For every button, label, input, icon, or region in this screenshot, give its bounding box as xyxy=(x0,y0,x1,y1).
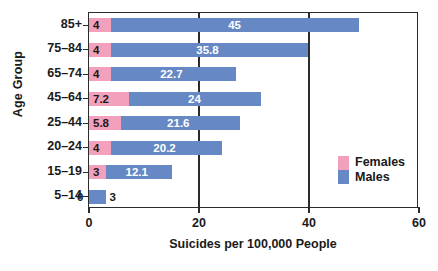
bar-value-label-females: 4 xyxy=(93,43,99,57)
legend-label-group: Females Males xyxy=(355,155,405,185)
bar-row: 5.821.6 xyxy=(89,116,419,130)
bar-value-label-females: 3 xyxy=(93,165,99,179)
x-tick-label-0: 0 xyxy=(69,216,109,230)
legend-swatch-group xyxy=(338,156,349,184)
bar-value-label-females: 7.2 xyxy=(93,92,109,106)
legend-swatch-females xyxy=(338,156,349,170)
y-axis-label-6: 15–19 xyxy=(20,164,82,179)
y-axis-label-5: 20–24 xyxy=(20,139,82,154)
bar-value-label-females: 5.8 xyxy=(93,116,109,130)
bar-segment-males xyxy=(89,190,106,204)
x-tick-label-60: 60 xyxy=(399,216,438,230)
bar-row: 445 xyxy=(89,18,419,32)
bar-value-label-males: 20.2 xyxy=(153,141,175,155)
x-tick-label-20: 20 xyxy=(179,216,219,230)
bar-row: 7.224 xyxy=(89,92,419,106)
bar-row: 435.8 xyxy=(89,43,419,57)
x-tick-60 xyxy=(418,207,419,213)
legend-swatch-males xyxy=(338,170,349,184)
bar-row: 03 xyxy=(89,190,419,204)
bar-value-label-males: 24 xyxy=(188,92,201,106)
bar-value-label-females: 4 xyxy=(93,141,99,155)
bar-value-label-females: 4 xyxy=(93,67,99,81)
y-axis-label-0: 85+ xyxy=(20,17,82,32)
legend-label-females: Females xyxy=(355,155,405,170)
bar-value-label-females: 0 xyxy=(77,190,83,204)
suicide-rate-bar-chart: Age Group 85+75–8465–7445–6425–4420–2415… xyxy=(0,0,438,271)
bar-value-label-females: 4 xyxy=(93,18,99,32)
x-tick-20 xyxy=(198,207,199,213)
bar-value-label-males: 3 xyxy=(110,190,116,204)
y-axis-label-1: 75–84 xyxy=(20,41,82,56)
y-axis-label-3: 45–64 xyxy=(20,90,82,105)
bar-value-label-males: 12.1 xyxy=(126,165,148,179)
y-axis-category-labels: 85+75–8465–7445–6425–4420–2415–195–14 xyxy=(14,12,82,208)
x-axis-title: Suicides per 100,000 People xyxy=(88,237,418,251)
bar-value-label-males: 35.8 xyxy=(196,43,218,57)
x-tick-label-40: 40 xyxy=(289,216,329,230)
x-tick-40 xyxy=(308,207,309,213)
bar-value-label-males: 21.6 xyxy=(167,116,189,130)
x-tick-0 xyxy=(88,207,89,213)
legend-label-males: Males xyxy=(355,170,405,185)
y-axis-label-4: 25–44 xyxy=(20,115,82,130)
bar-value-label-males: 22.7 xyxy=(160,67,182,81)
y-axis-label-7: 5–14 xyxy=(20,188,82,203)
bar-value-label-males: 45 xyxy=(228,18,241,32)
y-axis-label-2: 65–74 xyxy=(20,66,82,81)
bar-row: 420.2 xyxy=(89,141,419,155)
bar-row: 422.7 xyxy=(89,67,419,81)
